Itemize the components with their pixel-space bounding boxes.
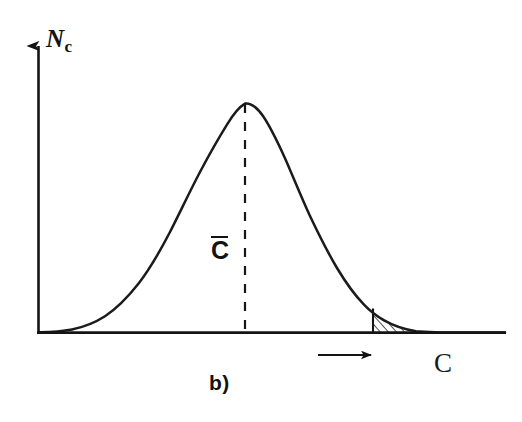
distribution-curve (40, 104, 505, 333)
x-axis-label: C (434, 350, 452, 377)
y-axis-subscript: c (65, 37, 73, 56)
mean-marker-label: C (211, 236, 229, 263)
y-axis-label: Nc (46, 26, 72, 55)
y-axis-symbol: N (46, 25, 64, 52)
figure-caption: b) (209, 372, 230, 393)
mean-marker-symbol: C (211, 236, 229, 263)
figure-container: Nc C C b) (0, 0, 522, 422)
